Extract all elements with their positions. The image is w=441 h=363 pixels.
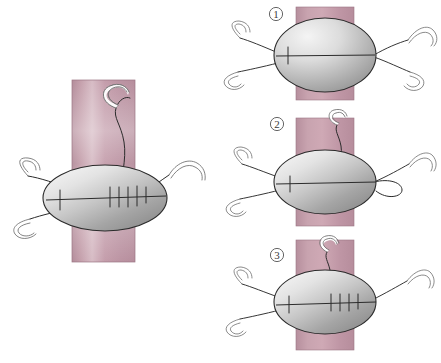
curved-needle [226, 199, 246, 217]
right-stay-suture [374, 164, 409, 182]
step-2-label: 2 [270, 117, 283, 130]
right-stay-sutures [374, 40, 410, 72]
oval-defect [274, 150, 376, 214]
surgical-illustration-figure: 1 [0, 0, 441, 363]
curved-needle [226, 319, 246, 337]
curved-needle [234, 267, 252, 284]
step-3-panel: 3 [226, 236, 434, 350]
right-stay-suture [372, 281, 407, 300]
step-1-number: 1 [273, 8, 279, 20]
left-stay-sutures [238, 38, 278, 72]
illustration-canvas: 1 [0, 0, 441, 363]
step-3-label: 3 [270, 248, 283, 261]
curved-needle [20, 158, 40, 176]
oval-defect [274, 18, 376, 92]
step-1-label: 1 [269, 7, 282, 20]
curved-needle [14, 219, 36, 239]
suture-loop [374, 181, 402, 197]
oval-defect [43, 165, 167, 231]
curved-needle [224, 72, 244, 90]
step-1-panel: 1 [224, 7, 437, 100]
step-2-number: 2 [274, 118, 280, 130]
curved-needle [404, 72, 424, 91]
curved-needle [407, 270, 434, 288]
curved-needle [234, 147, 252, 164]
step-2-panel: 2 [226, 109, 436, 226]
curved-needle [232, 21, 250, 38]
curved-needle [408, 27, 437, 46]
curved-needle [409, 153, 436, 171]
oval-defect [274, 270, 376, 334]
step-3-number: 3 [274, 249, 280, 261]
main-overview-panel [14, 80, 205, 262]
curved-needle [169, 161, 205, 180]
